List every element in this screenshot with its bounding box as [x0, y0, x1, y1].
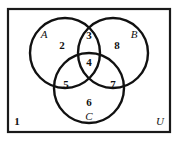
region-label-b-only: 8 — [114, 39, 120, 51]
region-label-a-and-c: 5 — [63, 78, 69, 90]
universal-set-label: U — [156, 115, 165, 127]
region-label-c-only: 6 — [86, 96, 92, 108]
set-label-b: B — [131, 28, 138, 40]
set-label-a: A — [40, 28, 48, 40]
region-label-b-and-c: 7 — [110, 78, 116, 90]
region-label-outside: 1 — [14, 115, 20, 127]
set-label-c: C — [85, 110, 93, 122]
region-label-a-and-b: 3 — [86, 29, 92, 41]
venn-diagram-figure: A B C U 1 2 3 4 5 6 7 8 — [0, 0, 178, 142]
region-label-a-only: 2 — [59, 39, 65, 51]
venn-diagram-canvas: A B C U 1 2 3 4 5 6 7 8 — [0, 0, 178, 142]
region-label-a-b-c: 4 — [86, 56, 92, 68]
